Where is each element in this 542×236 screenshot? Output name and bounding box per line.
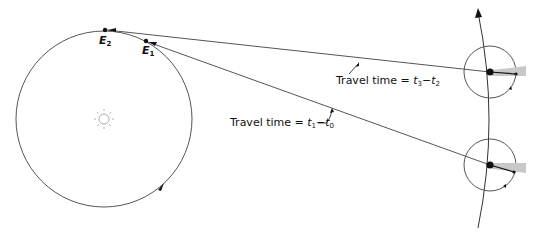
light-ray-upper	[107, 30, 490, 72]
minus-lower: −	[316, 116, 325, 129]
earth-e1-label: E1	[142, 45, 154, 58]
travel-time-upper-prefix: Travel time =	[336, 74, 413, 87]
leader-upper	[349, 64, 358, 74]
planet-icon	[464, 139, 526, 191]
planet-icon	[464, 46, 526, 98]
minus-upper: −	[422, 74, 431, 87]
earth-e2-label: E2	[99, 35, 111, 48]
earth-orbit	[16, 31, 192, 207]
light-ray-lower	[148, 42, 490, 165]
t2-sub: 2	[436, 80, 440, 88]
leader-upper-arrow-icon	[356, 62, 359, 67]
earth-e2-sub: 2	[107, 40, 112, 48]
planet-orbit-arrow-icon	[475, 8, 482, 18]
travel-time-lower-prefix: Travel time =	[230, 116, 307, 129]
earth-e1-letter: E	[142, 44, 150, 57]
sun-icon	[94, 109, 114, 129]
orbit-direction-arrow-icon	[158, 183, 164, 191]
earth-e1-dot	[144, 39, 148, 43]
t0-sub: 0	[330, 122, 334, 130]
earth-e2-dot	[103, 28, 107, 32]
earth-e2-letter: E	[99, 34, 107, 47]
earth-e1-sub: 1	[150, 50, 155, 58]
travel-time-upper-label: Travel time = t3−t2	[336, 75, 440, 88]
travel-time-lower-label: Travel time = t1−t0	[230, 117, 334, 130]
planet-orbit-path	[478, 12, 489, 228]
